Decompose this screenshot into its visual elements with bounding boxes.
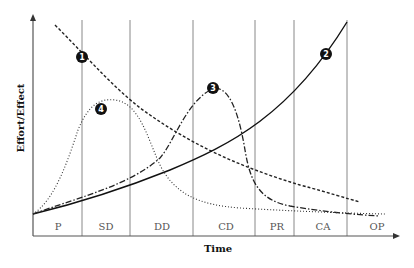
phase-label-ca: CA xyxy=(316,221,332,232)
svg-text:4: 4 xyxy=(98,105,104,114)
phase-labels: P SD DD CD PR CA OP xyxy=(55,221,385,232)
phase-label-sd: SD xyxy=(99,221,114,232)
marker-4: 4 xyxy=(95,103,107,115)
phase-dividers xyxy=(82,20,347,236)
curve-4-dotted xyxy=(33,100,385,214)
marker-2: 2 xyxy=(320,48,332,60)
svg-text:3: 3 xyxy=(210,84,216,93)
curve-3-dashdot xyxy=(33,88,380,216)
x-axis-arrow-icon xyxy=(393,233,400,239)
svg-text:1: 1 xyxy=(79,53,85,62)
y-axis-arrow-icon xyxy=(30,14,36,21)
effort-effect-diagram: P SD DD CD PR CA OP 1 2 3 4 Time Effort/… xyxy=(0,0,414,268)
phase-label-dd: DD xyxy=(154,221,170,232)
x-axis-title: Time xyxy=(204,243,232,254)
marker-1: 1 xyxy=(76,51,88,63)
phase-label-op: OP xyxy=(370,221,385,232)
y-axis-title: Effort/Effect xyxy=(15,83,26,152)
axes xyxy=(30,14,400,239)
phase-label-p: P xyxy=(55,221,62,232)
phase-label-pr: PR xyxy=(270,221,285,232)
marker-3: 3 xyxy=(207,82,219,94)
phase-label-cd: CD xyxy=(218,221,234,232)
svg-text:2: 2 xyxy=(323,50,329,59)
